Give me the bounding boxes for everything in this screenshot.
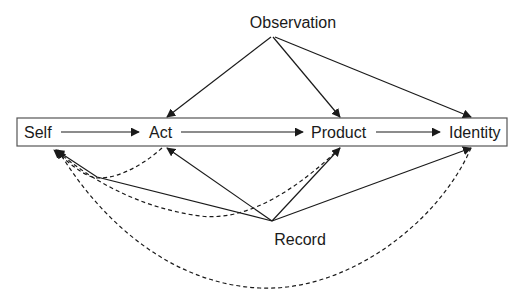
node-record: Record: [274, 231, 326, 248]
edge-act-to-self-dashed: [54, 148, 162, 178]
edge-observation-to-act: [167, 37, 271, 117]
edge-record-to-self: [56, 150, 272, 221]
node-act: Act: [149, 124, 173, 141]
edge-observation-to-product: [273, 37, 340, 117]
diagram-canvas: Self Act Product Identity Observation Re…: [0, 0, 528, 305]
edge-record-to-act: [167, 148, 272, 221]
edge-record-to-product: [272, 148, 340, 221]
edge-identity-to-self-dashed: [58, 148, 471, 288]
node-observation: Observation: [250, 14, 336, 31]
edge-observation-to-identity: [275, 37, 471, 117]
node-identity: Identity: [449, 124, 501, 141]
node-self: Self: [24, 124, 52, 141]
edge-product-to-self-dashed: [56, 148, 340, 217]
node-product: Product: [311, 124, 367, 141]
edge-record-to-identity: [272, 148, 471, 221]
